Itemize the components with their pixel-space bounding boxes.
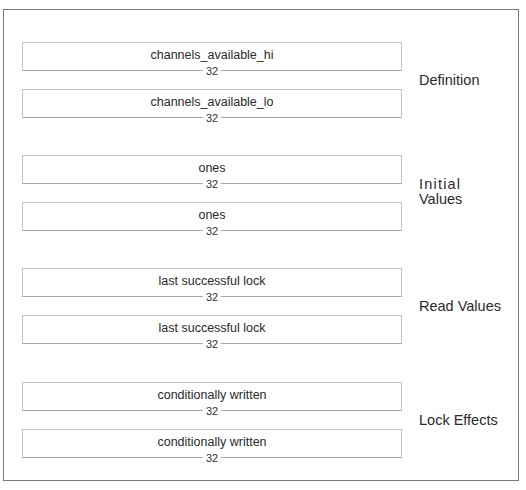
field-name: last successful lock [23, 321, 401, 335]
register-field: channels_available_hi 32 [22, 42, 402, 71]
register-field: last successful lock 32 [22, 315, 402, 344]
group-label-line: Initial [419, 177, 462, 192]
register-field: ones 32 [22, 155, 402, 184]
field-name: conditionally written [23, 388, 401, 402]
field-bit-width: 32 [203, 291, 221, 304]
field-name: conditionally written [23, 435, 401, 449]
group-label-line: Definition [419, 73, 479, 88]
field-bit-width: 32 [203, 338, 221, 351]
group-label-line: Values [419, 192, 462, 207]
field-name: last successful lock [23, 274, 401, 288]
register-field: ones 32 [22, 202, 402, 231]
field-name: ones [23, 208, 401, 222]
group-label-line: Read Values [419, 299, 501, 314]
field-bit-width: 32 [203, 112, 221, 125]
field-bit-width: 32 [203, 405, 221, 418]
field-bit-width: 32 [203, 452, 221, 465]
field-bit-width: 32 [203, 225, 221, 238]
field-bit-width: 32 [203, 65, 221, 78]
register-field: last successful lock 32 [22, 268, 402, 297]
group-label-lock-effects: Lock Effects [419, 413, 498, 428]
group-label-read-values: Read Values [419, 299, 501, 314]
register-field: conditionally written 32 [22, 429, 402, 458]
register-field: channels_available_lo 32 [22, 89, 402, 118]
group-label-initial-values: Initial Values [419, 177, 462, 207]
register-field: conditionally written 32 [22, 382, 402, 411]
field-name: ones [23, 161, 401, 175]
field-bit-width: 32 [203, 178, 221, 191]
group-label-line: Lock Effects [419, 413, 498, 428]
field-name: channels_available_hi [23, 48, 401, 62]
field-name: channels_available_lo [23, 95, 401, 109]
group-label-definition: Definition [419, 73, 479, 88]
